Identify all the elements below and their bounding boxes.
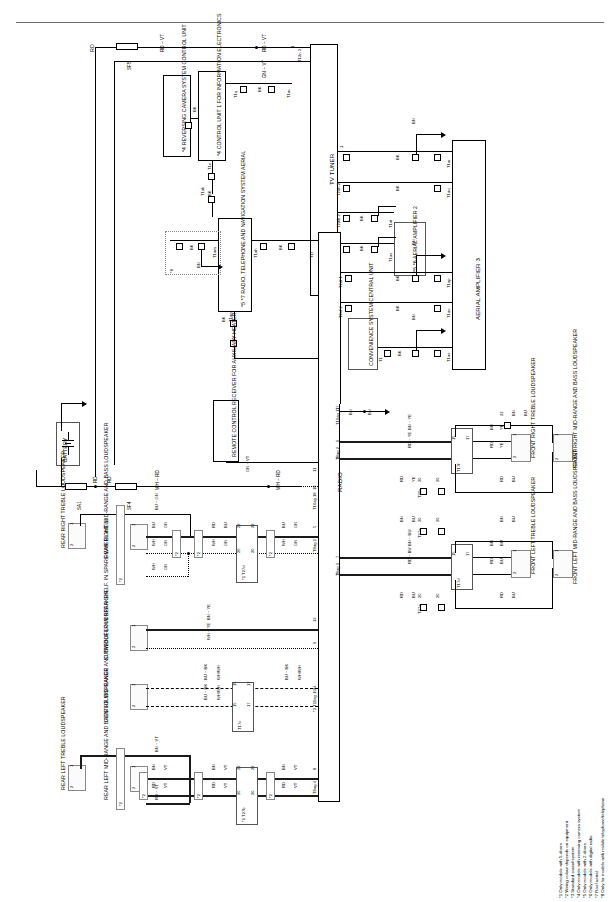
- wire-label-gn-rr2: GN: [164, 540, 169, 546]
- wire-label-bn5b: BN: [368, 409, 373, 415]
- pin-20-t20c: 20: [418, 477, 423, 482]
- wire-label-bk-conv: BK: [398, 350, 403, 356]
- wire-label-rd-rr: RD: [212, 522, 217, 528]
- wire-label-bn-ye-fr: BN ~ YE: [408, 414, 413, 430]
- wire-label-bn-t27a-top2: BN: [500, 516, 505, 522]
- spk-pin-2-rlt: 2: [70, 786, 75, 788]
- component-remote-control-receiver-label: REMOTE CONTROL RECEIVER FOR AUXILIARY HE…: [231, 313, 237, 457]
- wire-label-bk9: BK: [360, 215, 365, 221]
- wire-label-gn-rr5: GN: [294, 522, 299, 528]
- fuse-sf5-label: SF5: [127, 61, 132, 70]
- wire-label-bk-d: BK: [396, 305, 401, 311]
- wire-label-bn4: BN: [412, 314, 417, 320]
- speaker-front-left-treble-label: FRONT LEFT TREBLE LOUDSPEAKER: [530, 477, 536, 574]
- wire-label-wh-rd-1: WH ~ RD: [155, 470, 160, 490]
- wire-label-rd-fr-wrap: RD: [400, 476, 405, 482]
- fuse-sa1: [65, 483, 87, 490]
- terminal-t1ao: T1ao: [447, 308, 452, 318]
- wire-label-bu-bk-cm2: BU ~ BK: [204, 684, 209, 700]
- pin-20-rl-b: 20: [251, 790, 256, 795]
- wire-label-rd-vt-top2: RD ~ VT: [262, 34, 267, 52]
- wire-label-bu-rr4: BU: [224, 522, 229, 528]
- component-reversing-camera-label: *4 REVERSING CAMERA SYSTEM CONTROL UNIT: [181, 24, 187, 152]
- pin-20-t27a-top: 20: [418, 517, 423, 522]
- wire-label-rd-rl5: RD: [282, 782, 287, 788]
- wire-label-gn-vt-rcr: GN ~ VT: [246, 456, 251, 472]
- pin-8: 8: [313, 768, 318, 770]
- wire-label-rd-vt-top: RD ~ VT: [160, 34, 165, 52]
- wire-label-bu-rr5: BU: [282, 522, 287, 528]
- wire-label-bk2: BK: [258, 86, 263, 92]
- speaker-front-right-mid: [553, 434, 571, 460]
- terminal-t1am-label: T1am: [213, 247, 218, 258]
- wire-label-bu-t27a-top: BU: [412, 516, 417, 522]
- wire-label-gn-rr: GN: [164, 522, 169, 528]
- wire-label-rd-bu-fl: RD ~ BU: [408, 547, 413, 564]
- wire-label-rd-a: RD: [93, 476, 98, 483]
- component-radio-tel-nav-aerial: [218, 218, 252, 312]
- spk-pin-1-rlm: 1: [132, 766, 137, 768]
- wire-label-wh-rd-2: WH ~ RD: [276, 470, 281, 490]
- wire-label-bn-rl5: BN: [282, 764, 287, 770]
- pin-22-rr: 22: [237, 523, 242, 528]
- wire-label-whwh-cm2: WH/WH: [217, 685, 222, 700]
- wire-label-whwh-cm: WH/WH: [217, 665, 222, 680]
- wire-label-bk6: BK: [222, 316, 227, 322]
- spk-pin-2-frm: 2: [555, 458, 560, 460]
- wire-label-rd-rl3: RD: [212, 782, 217, 788]
- wire-label-vt-rl3: VT: [224, 765, 229, 770]
- spk-pin-2-rrm: 2: [132, 545, 137, 547]
- connector-t27b-label: *1 T27b: [242, 807, 247, 822]
- pin-15-cm: 15: [233, 681, 238, 686]
- spk-pin-1-frm: 1: [555, 434, 560, 436]
- terminal-t8ag4: T8ag 4: [313, 781, 318, 794]
- connector-t27a-b: [438, 604, 445, 611]
- component-radio-tel-nav-aerial-label: *5 *7 RADIO, TELEPHONE AND NAVIGATION SY…: [240, 151, 246, 307]
- wire-label-bn5: BN: [349, 409, 354, 415]
- mark-2-rr3: *2: [197, 552, 202, 556]
- spk-pin-1-rrt: 1: [70, 523, 75, 525]
- fuse-sf5: [116, 43, 138, 50]
- component-aerial-amplifier-3-label: AERIAL AMPLIFIER 3: [474, 258, 481, 320]
- connector-t17c-label: T17c: [238, 721, 243, 730]
- wire-label-bk7: BK: [396, 154, 401, 160]
- fuse-sf4-label: SF4: [127, 501, 132, 510]
- component-convenience-unit-label: CONVENIENCE SYSTEM CENTRAL UNIT: [368, 263, 374, 366]
- wire-label-bk-aa2: BK: [360, 245, 365, 251]
- speaker-rear-left-mid-label: REAR LEFT MID-RANGE AND BASS LOUDSPEAKER: [103, 668, 109, 800]
- wire-label-rd-fl-wrap2: RD: [500, 592, 505, 598]
- pin-t1-a: 1: [340, 146, 345, 148]
- wire-label-rd-rl: RD: [152, 782, 157, 788]
- connector-t27d-label: *1 T27d: [242, 565, 247, 580]
- footnote-8: *8 Only for models with mobile telephone…: [600, 798, 605, 898]
- wire-label-bu-rr: BU: [152, 522, 157, 528]
- mark-2-rr2: *2: [175, 552, 180, 556]
- wire-label-bu-fl3: BU: [500, 558, 505, 564]
- wire-label-gn-rr3: GN: [164, 564, 169, 570]
- wire-label-bn-t27a-top: BN: [400, 516, 405, 522]
- footnote-3: *3 Standard sound system: [570, 847, 575, 899]
- spk-pin-2-sub: 2: [132, 646, 137, 648]
- speaker-rear-right-treble-label: REAR RIGHT TREBLE LOUDSPEAKER: [60, 451, 66, 548]
- spk-pin-1-sub: 1: [132, 625, 137, 627]
- footnote-1: *1 Only models with 5-doors: [558, 843, 563, 898]
- pin-17-fr: 17: [466, 435, 471, 440]
- speaker-front-right-mid-label: FRONT RIGHT MID-RANGE AND BASS LOUDSPEAK…: [572, 329, 578, 468]
- wire-label-ye-fr-wrap: YE: [412, 476, 417, 482]
- wire-label-bu-bk-cm3: BU ~ BK: [285, 664, 290, 680]
- wire-label-rd-ye-fr: RD ~ YE: [408, 432, 413, 448]
- wire-label-vt-rl5: VT: [294, 765, 299, 770]
- spk-pin-1-rlt: 1: [70, 765, 75, 767]
- pin-17-fl: 17: [466, 551, 471, 556]
- terminal-t1at: T1at: [389, 220, 394, 228]
- pin-7: 7: [336, 556, 341, 558]
- wire-label-bn2: BN: [412, 118, 417, 124]
- pin-22-rl-b: 22: [251, 765, 256, 770]
- wire-label-rd-fl-wrap: RD: [400, 592, 405, 598]
- pin-5: 5: [313, 526, 318, 528]
- wire-label-vt-rl2: VT: [164, 783, 169, 788]
- fuse-sa1-label: SA1: [77, 501, 82, 510]
- wire-label-bn-rl: BN: [152, 764, 157, 770]
- wire-label-wh-rr: WH: [152, 539, 157, 546]
- wire-label-bk1: BK: [193, 106, 198, 112]
